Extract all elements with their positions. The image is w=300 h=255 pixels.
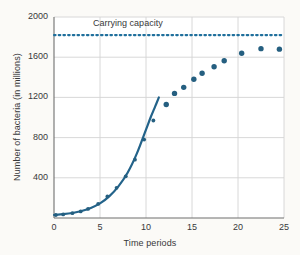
carrying-capacity-label: Carrying capacity [93,18,163,28]
data-point-9 [133,158,137,162]
data-point-1 [61,212,65,216]
chart-canvas [0,0,300,255]
data-point-14 [181,85,186,90]
data-point-15 [191,77,196,82]
plot-background-group [54,17,284,218]
data-point-0 [54,213,58,217]
data-point-16 [199,71,204,76]
x-axis-title: Time periods [0,238,300,248]
data-point-13 [172,91,177,96]
data-point-8 [124,174,128,178]
x-tick-label-5: 5 [88,222,112,232]
data-point-2 [71,211,75,215]
data-point-20 [258,46,263,51]
data-point-10 [142,138,146,142]
x-tick-label-0: 0 [42,222,66,232]
y-tick-label-1200: 1200 [14,91,48,101]
data-point-11 [151,119,155,123]
data-point-21 [277,46,282,51]
data-point-7 [115,186,119,190]
data-point-19 [239,50,244,55]
data-point-18 [222,58,227,63]
x-tick-label-25: 25 [272,222,296,232]
x-tick-label-20: 20 [226,222,250,232]
data-point-12 [164,102,169,107]
bacteria-growth-chart: Carrying capacity Number of bacteria (in… [0,0,300,255]
x-tick-label-15: 15 [180,222,204,232]
data-point-3 [79,210,83,214]
y-tick-label-1600: 1600 [14,51,48,61]
data-point-5 [96,202,100,206]
data-point-6 [105,194,109,198]
y-tick-label-2000: 2000 [14,11,48,21]
y-tick-label-400: 400 [14,172,48,182]
plot-area-background [54,17,284,218]
data-point-17 [211,64,216,69]
x-tick-label-10: 10 [134,222,158,232]
y-tick-label-800: 800 [14,132,48,142]
data-point-4 [86,207,90,211]
